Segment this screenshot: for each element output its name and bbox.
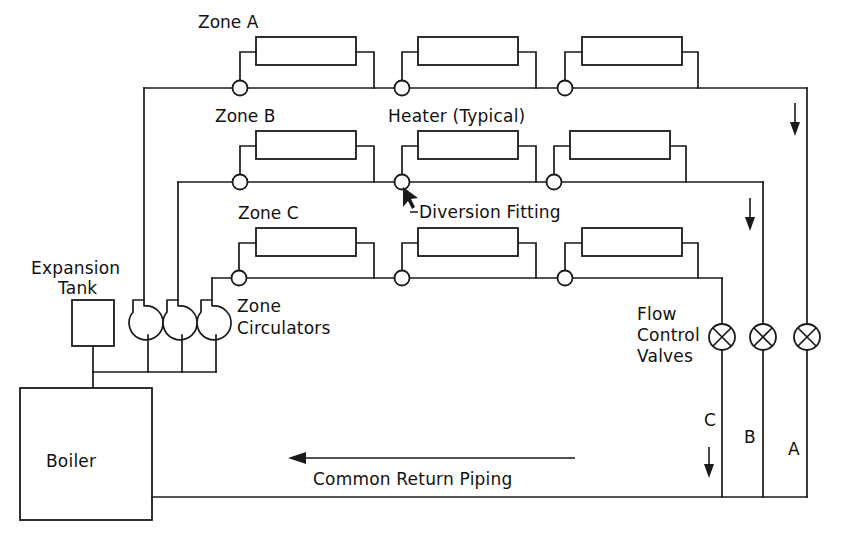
zone-b-diverter-tee-1 <box>233 175 248 190</box>
zone-c-heater-3 <box>582 228 682 256</box>
flow-control-valves-label-line3: Valves <box>637 346 693 366</box>
zone-b-return-arrow <box>745 198 755 231</box>
boiler-label: Boiler <box>46 451 96 471</box>
zone-c-diverter-tee-1 <box>232 271 247 286</box>
expansion-tank-label-line2: Tank <box>57 278 97 298</box>
zone-a-diverter-tee-1 <box>233 81 248 96</box>
zone-c-heater-2-return-branch <box>518 243 536 278</box>
zone-b-arrow-head <box>745 217 755 231</box>
zone-circulator-c <box>197 300 231 372</box>
schematic-canvas: Zone A Zone B <box>0 0 842 545</box>
common-return-arrow-head <box>288 452 306 464</box>
zone-b-heater-2-return-branch <box>518 146 536 182</box>
riser-tag-c: C <box>704 410 716 430</box>
zone-a-return-arrow <box>790 103 800 136</box>
diversion-fitting-callout: Diversion Fitting <box>403 187 561 222</box>
zone-circulators-label-line1: Zone <box>237 296 281 316</box>
common-return-arrow <box>288 452 575 464</box>
zone-circulator-a <box>129 300 163 372</box>
riser-tag-b: B <box>744 427 756 447</box>
expansion-tank-group: Expansion Tank <box>31 258 120 372</box>
zone-b-heater-2 <box>418 131 518 159</box>
zone-a-heater-3-return-branch <box>682 52 698 88</box>
zone-c-diverter-tee-2 <box>395 271 410 286</box>
zone-c-arrow-head <box>704 464 714 478</box>
zone-circulators-group: Zone Circulators <box>129 296 331 372</box>
riser-tag-a: A <box>788 439 800 459</box>
expansion-tank-body <box>72 300 114 346</box>
diversion-fitting-label: Diversion Fitting <box>419 202 561 222</box>
circulator-c-icon <box>197 300 231 340</box>
zone-a-diverter-tee-3 <box>558 81 573 96</box>
zone-a-heater-3 <box>582 37 682 65</box>
zone-c-heater-1 <box>256 228 356 256</box>
zone-a-diverter-tee-2 <box>395 81 410 96</box>
zone-c-return-arrow <box>704 447 714 478</box>
heater-typical-label: Heater (Typical) <box>388 106 525 126</box>
zone-a-arrow-head <box>790 122 800 136</box>
common-return-label: Common Return Piping <box>313 469 512 489</box>
zone-c-heater-1-return-branch <box>356 243 374 278</box>
circulator-b-icon <box>163 300 197 340</box>
zone-a-heater-2-return-branch <box>518 52 536 88</box>
zone-b-diverter-tee-3 <box>547 175 562 190</box>
zone-b-heater-3-return-branch <box>670 146 686 182</box>
zone-circulators-label-line2: Circulators <box>237 318 331 338</box>
zone-b-label: Zone B <box>215 106 275 126</box>
hydronic-zoning-diagram: Zone A Zone B <box>0 0 842 545</box>
circulator-a-icon <box>129 300 163 340</box>
zone-c-diverter-tee-3 <box>558 271 573 286</box>
zone-b-diverter-tee-2 <box>395 175 410 190</box>
zone-b-heater-1-return-branch <box>356 146 374 182</box>
flow-control-valve-b <box>750 324 776 497</box>
zone-c-heater-3-return-branch <box>682 243 698 278</box>
zone-a-label: Zone A <box>198 12 259 32</box>
flow-control-valves-group: Flow Control Valves <box>637 304 820 497</box>
zone-circulator-b <box>163 300 197 372</box>
flow-control-valves-label-line1: Flow <box>637 304 677 324</box>
zone-b-heater-3 <box>570 131 670 159</box>
zone-c-heater-2 <box>418 228 518 256</box>
zone-a-heater-1 <box>256 37 356 65</box>
zone-a-heater-2 <box>418 37 518 65</box>
expansion-tank-label-line1: Expansion <box>31 258 120 278</box>
flow-control-valves-label-line2: Control <box>637 325 700 345</box>
flow-control-valve-a <box>794 324 820 497</box>
zone-c-label: Zone C <box>238 203 299 223</box>
zone-a-heater-1-return-branch <box>356 52 374 88</box>
zone-b-heater-1 <box>256 131 356 159</box>
diversion-fitting-pointer-icon <box>403 187 418 209</box>
